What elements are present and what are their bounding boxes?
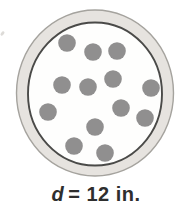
dot [96, 144, 114, 162]
dot [86, 118, 104, 136]
dot [39, 103, 57, 121]
dot [79, 78, 97, 96]
circle-figure [0, 0, 192, 182]
diameter-label: d= 12 in. [0, 182, 192, 206]
dot [112, 99, 130, 117]
circle-diagram-svg [0, 0, 192, 182]
dot [84, 43, 102, 61]
diameter-variable: d [51, 183, 64, 205]
dot [58, 34, 76, 52]
dot [142, 79, 160, 97]
dot [104, 70, 122, 88]
dot [53, 76, 71, 94]
dot [108, 42, 126, 60]
dot [65, 137, 83, 155]
dot [136, 109, 154, 127]
diameter-value-text: = 12 in. [68, 183, 140, 205]
